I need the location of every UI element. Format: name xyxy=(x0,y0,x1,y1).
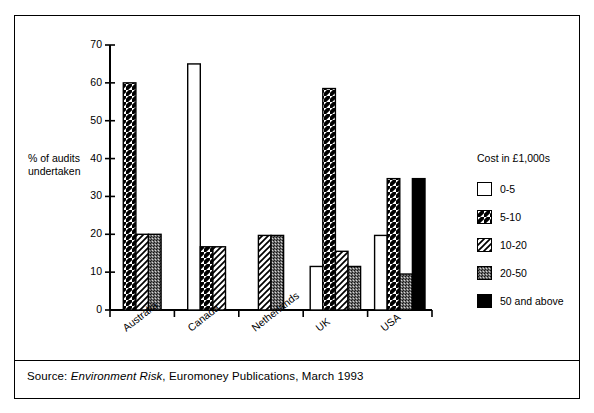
legend-item[interactable]: 20-50 xyxy=(477,264,527,282)
legend-swatch-solid-white-icon xyxy=(477,182,492,196)
y-tick-label: 10 xyxy=(70,265,102,277)
y-tick-label: 0 xyxy=(70,303,102,315)
source-suffix: , Euromoney Publications, March 1993 xyxy=(162,370,363,382)
y-axis-label-line2: undertaken xyxy=(28,165,81,178)
chart-figure: % of audits undertaken Cost in £1,000s 0… xyxy=(0,0,594,413)
legend-swatch-hatch-fwd-icon xyxy=(477,210,492,224)
legend-item-label: 50 and above xyxy=(500,295,564,307)
legend-swatch-hatch-back-icon xyxy=(477,238,492,252)
legend-item-label: 0-5 xyxy=(500,183,515,195)
bar xyxy=(375,235,388,310)
bar xyxy=(136,234,149,310)
bar xyxy=(213,247,226,310)
bar xyxy=(323,89,336,310)
bar xyxy=(123,83,136,310)
bar xyxy=(335,251,348,310)
legend-item[interactable]: 0-5 xyxy=(477,180,515,198)
bar xyxy=(348,266,361,310)
legend-item-label: 20-50 xyxy=(500,267,527,279)
bar xyxy=(400,274,413,310)
y-tick-label: 20 xyxy=(70,227,102,239)
source-prefix: Source: xyxy=(27,370,71,382)
legend-item-label: 10-20 xyxy=(500,239,527,251)
y-tick-label: 70 xyxy=(70,38,102,50)
bar xyxy=(387,179,400,310)
legend-swatch-stipple-icon xyxy=(477,266,492,280)
bar-chart-canvas xyxy=(0,0,594,413)
y-tick-label: 40 xyxy=(70,152,102,164)
bar xyxy=(188,64,201,310)
legend-title: Cost in £1,000s xyxy=(477,152,550,164)
bar xyxy=(200,247,213,310)
y-tick-label: 50 xyxy=(70,114,102,126)
source-publication: Environment Risk xyxy=(71,370,163,382)
footer-divider xyxy=(14,360,580,361)
y-tick-label: 30 xyxy=(70,189,102,201)
source-note: Source: Environment Risk, Euromoney Publ… xyxy=(27,370,363,382)
legend-item-label: 5-10 xyxy=(500,211,521,223)
bar xyxy=(258,235,271,310)
bar xyxy=(310,266,323,310)
legend-swatch-solid-black-icon xyxy=(477,294,492,308)
legend-item[interactable]: 5-10 xyxy=(477,208,521,226)
legend-item[interactable]: 10-20 xyxy=(477,236,527,254)
y-tick-label: 60 xyxy=(70,76,102,88)
legend-item[interactable]: 50 and above xyxy=(477,292,564,310)
bar xyxy=(412,179,425,310)
